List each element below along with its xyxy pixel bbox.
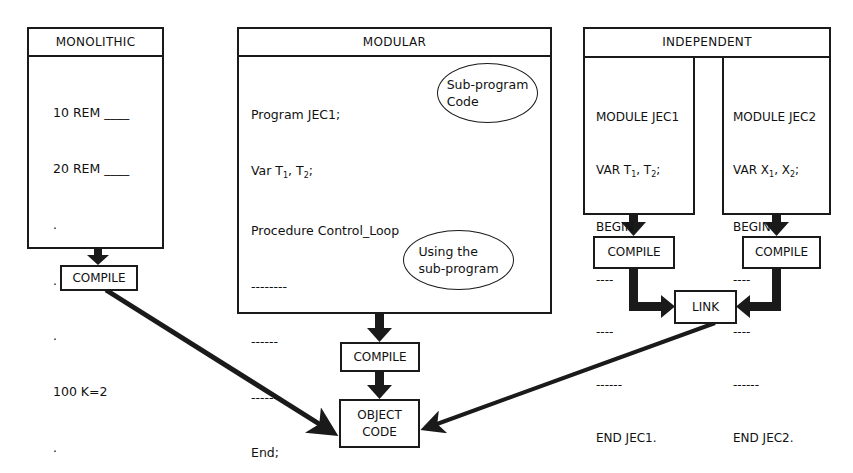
code-line: 10 REM ____ (53, 104, 129, 123)
code-line: . (53, 216, 129, 235)
code-line: ---- (596, 324, 679, 342)
code-line: ---- (733, 272, 816, 290)
modular-title: MODULAR (237, 27, 552, 57)
code-line: Program JEC1; (251, 106, 399, 125)
code-line: MODULE JEC2 (733, 109, 816, 127)
link-box: LINK (674, 290, 737, 324)
code-text: Var T (251, 163, 283, 178)
code-line: Var T1, T2; (251, 162, 399, 186)
code-text: , T (636, 163, 651, 177)
code-line: Procedure Control_Loop (251, 222, 399, 241)
code-line: 20 REM ____ (53, 160, 129, 179)
code-text: ; (795, 163, 799, 177)
code-text: VAR X (733, 163, 769, 177)
independent-compile1-box: COMPILE (593, 236, 675, 269)
code-text: , X (774, 163, 790, 177)
bubble-using-subprogram: Using the sub-program (403, 230, 514, 290)
monolithic-title: MONOLITHIC (27, 27, 164, 57)
code-text: , T (288, 163, 304, 178)
code-line: BEGIN (733, 219, 816, 237)
code-line: VAR T1, T2; (596, 162, 679, 184)
code-text: ; (656, 163, 660, 177)
independent-compile2-box: COMPILE (742, 236, 821, 269)
code-line: ------ (733, 377, 816, 395)
code-line: END JEC1. (596, 430, 679, 448)
bubble-subprogram-code: Sub-program Code (437, 63, 538, 123)
code-text: VAR T (596, 163, 631, 177)
code-line: MODULE JEC1 (596, 109, 679, 127)
object-code-box: OBJECT CODE (339, 399, 420, 448)
independent-title: INDEPENDENT (583, 27, 831, 58)
code-line: 100 K=2 (53, 383, 129, 402)
code-line: ---- (596, 272, 679, 290)
code-line: ---- (733, 324, 816, 342)
code-line: -------- (251, 278, 399, 297)
code-line: . (53, 327, 129, 346)
code-line: BEGIN (596, 219, 679, 237)
code-text: ; (309, 163, 313, 178)
monolithic-compile-box: COMPILE (60, 265, 138, 291)
code-line: . (53, 439, 129, 458)
module-jec2-code: MODULE JEC2 VAR X1, X2; BEGIN ---- ---- … (733, 74, 816, 465)
code-line: VAR X1, X2; (733, 162, 816, 184)
module-jec1-code: MODULE JEC1 VAR T1, T2; BEGIN ---- ---- … (596, 74, 679, 465)
code-line: ------ (596, 377, 679, 395)
modular-compile-box: COMPILE (340, 342, 420, 372)
code-line: END JEC2. (733, 430, 816, 448)
